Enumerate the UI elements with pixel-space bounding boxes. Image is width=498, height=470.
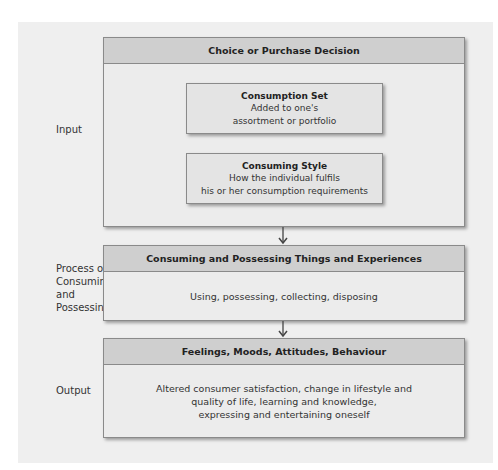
process-box: Consuming and Possessing Things and Expe… (103, 245, 465, 321)
output-box-body: Altered consumer satisfaction, change in… (104, 365, 464, 438)
consuming-style-title: Consuming Style (242, 160, 327, 173)
consumption-set-title: Consumption Set (241, 90, 328, 103)
output-box: Feelings, Moods, Attitudes, Behaviour Al… (103, 338, 465, 438)
consumption-set-line: assortment or portfolio (233, 115, 337, 128)
consuming-style-line: How the individual fulfils (229, 172, 340, 185)
arrow-down-icon (278, 227, 288, 245)
process-box-header: Consuming and Possessing Things and Expe… (104, 246, 464, 272)
output-line: expressing and entertaining oneself (198, 408, 369, 421)
diagram-panel: Input Process of Consuming and Possessin… (18, 22, 493, 463)
input-label: Input (56, 123, 82, 136)
arrow-down-icon (278, 321, 288, 338)
output-box-header: Feelings, Moods, Attitudes, Behaviour (104, 339, 464, 365)
input-box-header: Choice or Purchase Decision (104, 38, 464, 64)
output-label: Output (56, 384, 91, 397)
consuming-style-line: his or her consumption requirements (201, 185, 368, 198)
input-box: Choice or Purchase Decision Consumption … (103, 37, 465, 227)
output-line: quality of life, learning and knowledge, (191, 395, 376, 408)
consumption-set-box: Consumption Set Added to one's assortmen… (186, 83, 383, 134)
consumption-set-line: Added to one's (251, 102, 318, 115)
output-line: Altered consumer satisfaction, change in… (156, 382, 412, 395)
consuming-style-box: Consuming Style How the individual fulfi… (186, 153, 383, 204)
process-box-body: Using, possessing, collecting, disposing (104, 272, 464, 321)
